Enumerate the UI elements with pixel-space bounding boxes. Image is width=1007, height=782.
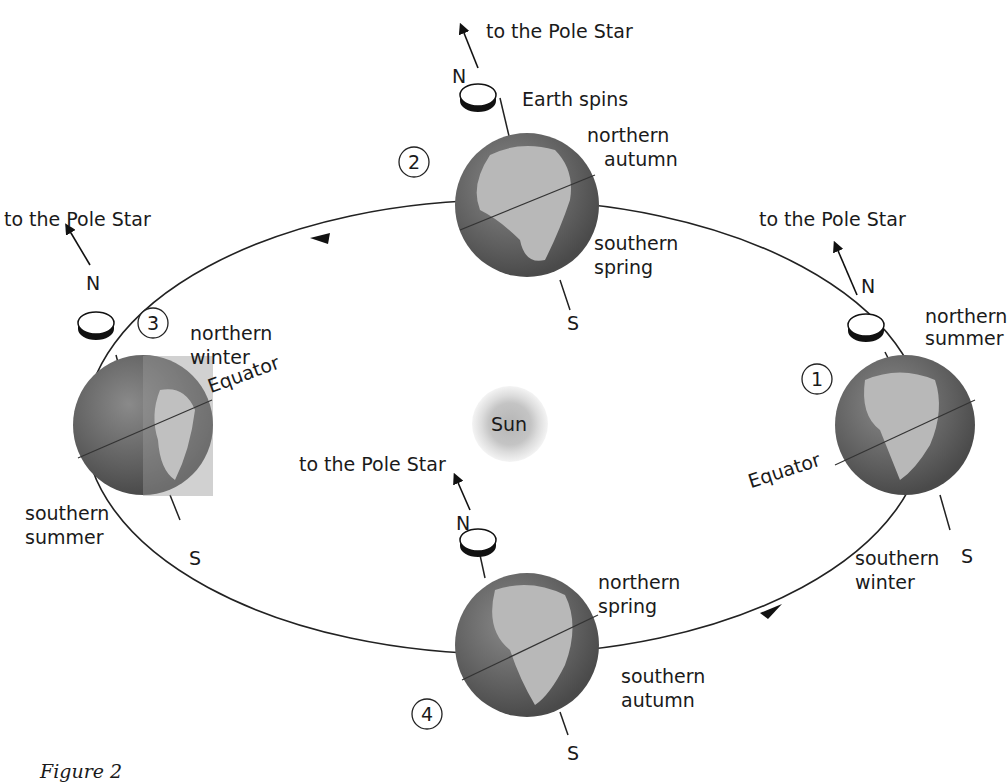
position-number-4: 4 xyxy=(421,703,433,725)
position-number-3: 3 xyxy=(147,312,159,334)
pole-star-arrow-1 xyxy=(836,246,857,295)
sun-label: Sun xyxy=(491,413,527,435)
south-label-2: S xyxy=(567,312,579,334)
season-north-2b: autumn xyxy=(604,148,678,170)
pole-star-label-4: to the Pole Star xyxy=(299,453,446,475)
north-label-4: N xyxy=(456,512,470,534)
season-north-2a: northern xyxy=(587,124,669,146)
season-south-1a: southern xyxy=(855,547,939,569)
season-south-2a: southern xyxy=(594,232,678,254)
season-south-2b: spring xyxy=(594,256,653,278)
south-label-1: S xyxy=(961,545,973,567)
figure-caption: Figure 2 xyxy=(40,760,122,782)
earth-position-1 xyxy=(835,352,975,530)
north-label-2: N xyxy=(452,65,466,87)
season-north-1a: northern xyxy=(925,305,1007,327)
earth-position-4 xyxy=(455,555,599,735)
south-label-4: S xyxy=(567,742,579,764)
season-south-1b: winter xyxy=(855,571,915,593)
pole-star-label-2: to the Pole Star xyxy=(486,20,633,42)
pole-star-arrow-2 xyxy=(462,28,478,68)
season-south-3b: summer xyxy=(25,526,103,548)
north-label-1: N xyxy=(861,275,875,297)
south-label-3: S xyxy=(189,547,201,569)
season-north-3a: northern xyxy=(190,322,272,344)
season-south-3a: southern xyxy=(25,502,109,524)
season-north-4a: northern xyxy=(598,571,680,593)
position-number-2: 2 xyxy=(408,151,420,173)
season-south-4a: southern xyxy=(621,665,705,687)
earth-position-2 xyxy=(455,98,599,310)
spin-icon xyxy=(848,314,884,342)
season-north-1b: summer xyxy=(925,327,1003,349)
season-south-4b: autumn xyxy=(621,689,695,711)
orbit-arrow-top xyxy=(310,233,330,244)
pole-star-arrow-3 xyxy=(68,228,90,265)
pole-star-arrow-4 xyxy=(456,478,470,510)
north-label-3: N xyxy=(86,272,100,294)
spin-icon xyxy=(460,84,496,112)
position-number-1: 1 xyxy=(811,368,823,390)
pole-star-label-3: to the Pole Star xyxy=(4,208,151,230)
spin-label: Earth spins xyxy=(522,88,628,110)
season-north-4b: spring xyxy=(598,595,657,617)
pole-star-label-1: to the Pole Star xyxy=(759,208,906,230)
earth-position-3 xyxy=(73,355,213,520)
spin-icon xyxy=(78,312,114,340)
